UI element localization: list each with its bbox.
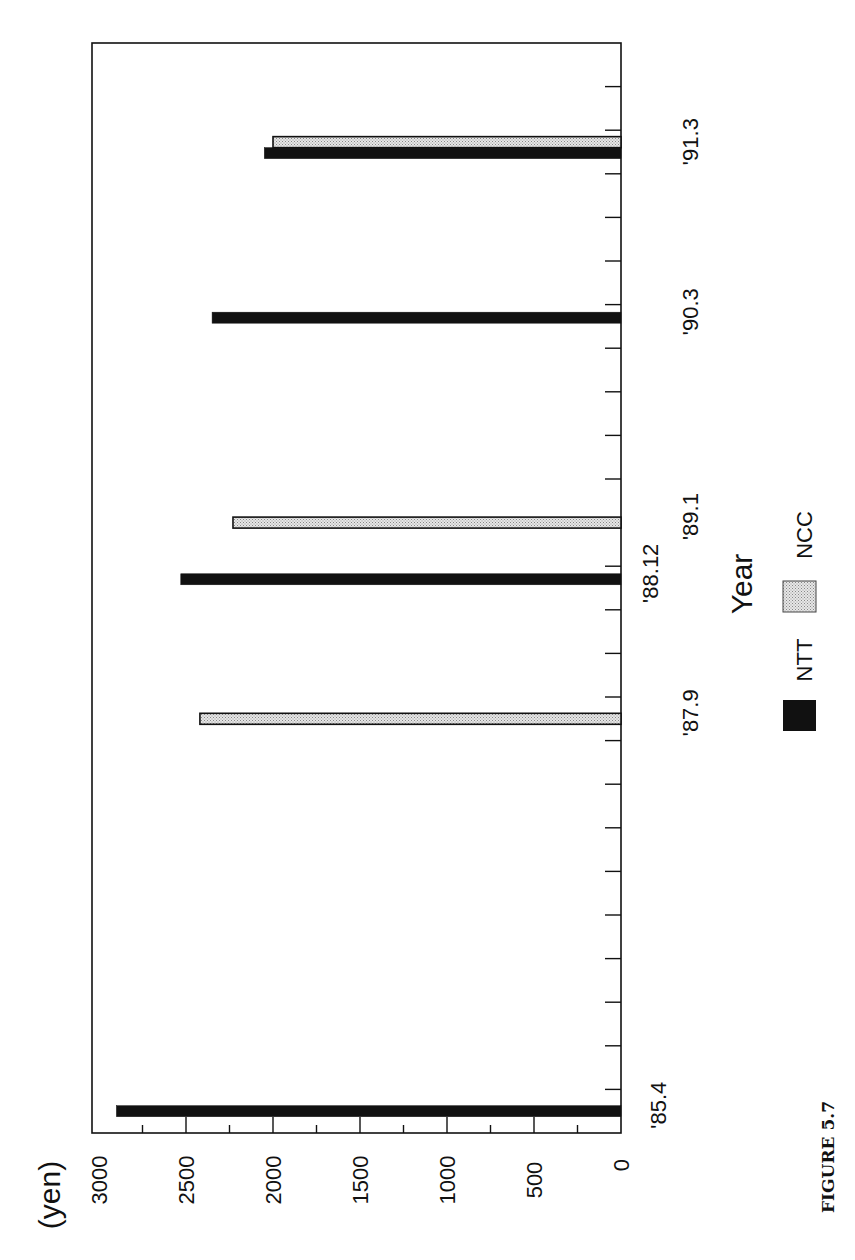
value-axis: 050010001500200025003000 xyxy=(87,1117,634,1204)
value-tick-label: 3000 xyxy=(87,1156,112,1205)
value-tick-label: 0 xyxy=(609,1159,634,1171)
value-tick-label: 500 xyxy=(522,1162,547,1199)
value-tick-label: 2000 xyxy=(261,1156,286,1205)
bar-ncc xyxy=(273,137,621,148)
chart: 050010001500200025003000 '85.4'87.9'88.1… xyxy=(0,0,855,1260)
value-tick-label: 1500 xyxy=(348,1156,373,1205)
category-label: '90.3 xyxy=(678,288,703,335)
legend-swatch-ncc xyxy=(783,581,816,612)
category-label: '91.3 xyxy=(678,118,703,165)
legend-label-ntt: NTT xyxy=(792,639,817,682)
x-axis-label: Year xyxy=(725,554,758,615)
category-labels: '85.4'87.9'88.12'89.1'90.3'91.3 xyxy=(638,118,703,1129)
legend-swatch-ntt xyxy=(783,700,816,731)
legend-label-ncc: NCC xyxy=(792,511,817,559)
category-axis xyxy=(605,87,621,1090)
category-label: '85.4 xyxy=(646,1082,671,1129)
value-tick-label: 1000 xyxy=(435,1156,460,1205)
bar-ntt xyxy=(181,574,621,585)
bar-ntt xyxy=(116,1106,621,1117)
category-label: '87.9 xyxy=(678,689,703,736)
category-label: '88.12 xyxy=(638,544,663,603)
plot-frame xyxy=(92,43,621,1133)
bar-ncc xyxy=(233,517,621,528)
y-axis-label: (yen) xyxy=(33,1161,66,1229)
bars xyxy=(116,137,621,1117)
value-tick-label: 2500 xyxy=(174,1156,199,1205)
bar-ntt xyxy=(264,148,621,159)
figure-label: FIGURE 5.7 xyxy=(818,1101,838,1213)
category-label: '89.1 xyxy=(678,493,703,540)
legend: NTT NCC xyxy=(783,511,817,731)
bar-ncc xyxy=(200,713,621,724)
bar-ntt xyxy=(212,312,621,323)
